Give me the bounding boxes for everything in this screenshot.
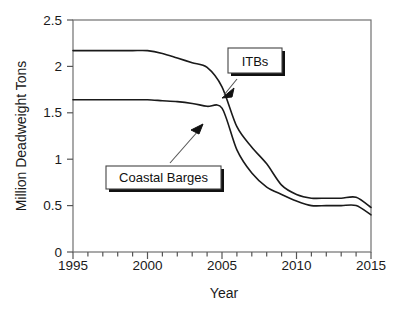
x-tick-label-2005: 2005	[207, 258, 237, 273]
y-axis-tick-labels: 2.5 2 1.5 1 0.5 0	[43, 13, 62, 260]
x-axis-title: Year	[210, 285, 239, 301]
plot-frame	[73, 20, 371, 252]
y-axis-title: Million Deadweight Tons	[13, 61, 29, 212]
plot-area-border	[73, 20, 371, 252]
itbs-label-text: ITBs	[242, 54, 269, 69]
x-tick-label-2015: 2015	[356, 258, 386, 273]
y-axis-ticks	[67, 20, 73, 252]
x-tick-label-2000: 2000	[132, 258, 162, 273]
y-tick-label-1.5: 1.5	[43, 105, 62, 120]
y-tick-label-1: 1	[54, 152, 62, 167]
y-tick-label-2.5: 2.5	[43, 13, 62, 28]
x-axis-tick-labels: 1995 2000 2005 2010 2015	[58, 258, 386, 273]
y-tick-label-2: 2	[54, 59, 62, 74]
x-tick-label-2010: 2010	[281, 258, 311, 273]
coastal-barges-label-text: Coastal Barges	[119, 170, 208, 185]
chart-container: 2.5 2 1.5 1 0.5 0 1995 2000 2005 2010 20…	[0, 0, 401, 315]
y-tick-label-0.5: 0.5	[43, 198, 62, 213]
x-tick-label-1995: 1995	[58, 258, 88, 273]
line-chart: 2.5 2 1.5 1 0.5 0 1995 2000 2005 2010 20…	[0, 0, 401, 315]
